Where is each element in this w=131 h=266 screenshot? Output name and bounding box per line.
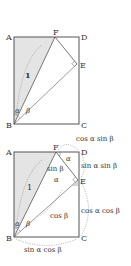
label-alpha: α — [15, 107, 20, 115]
angle-arc-beta-B — [19, 230, 21, 232]
label-E: E — [80, 177, 86, 186]
label-FE-sin-beta: sin β — [47, 165, 64, 173]
label-C: C — [81, 121, 87, 130]
label-B: B — [6, 121, 12, 130]
label-BC-sin-alpha-cos-beta: sin α cos β — [24, 246, 62, 254]
label-D: D — [81, 148, 87, 157]
label-A: A — [5, 33, 12, 42]
label-A: A — [5, 148, 12, 157]
top-diagram: A F D E B C 1 α β — [5, 28, 87, 130]
label-beta: β — [25, 107, 30, 115]
right-angle-mark-E — [72, 61, 77, 67]
label-hypotenuse-1: 1 — [25, 70, 31, 80]
label-D: D — [81, 33, 87, 42]
bottom-diagram: A F D E B C 1 α β α α sin β cos β cos α … — [5, 135, 120, 254]
label-C: C — [81, 234, 87, 243]
angle-arc-alpha-F — [60, 152, 61, 156]
label-beta-B: β — [25, 220, 30, 228]
trig-addition-diagram: A F D E B C 1 α β A F D E B C — [0, 0, 131, 266]
label-alpha-B: α — [15, 220, 20, 228]
length-arc-BC — [16, 239, 77, 246]
label-F: F — [53, 143, 59, 152]
label-E: E — [80, 61, 86, 70]
label-F: F — [53, 28, 59, 37]
length-arc-FD — [58, 145, 78, 151]
label-FD-cos-alpha-sin-beta: cos α sin β — [76, 135, 114, 143]
angle-arc-beta — [19, 117, 21, 119]
label-alpha-F: α — [66, 155, 71, 163]
label-EC-cos-alpha-cos-beta: cos α cos β — [81, 207, 120, 215]
label-BE-cos-beta: cos β — [50, 212, 68, 220]
label-alpha-E: α — [54, 176, 59, 184]
label-DE-sin-alpha-sin-beta: sin α sin β — [81, 162, 117, 170]
label-B: B — [6, 234, 12, 243]
label-hypotenuse-1: 1 — [27, 183, 32, 192]
segment-FE — [55, 37, 77, 64]
